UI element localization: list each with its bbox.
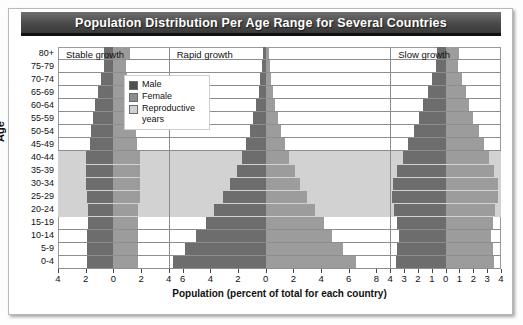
y-axis-labels: 80+75-7970-7465-6960-6455-5950-5445-4940… bbox=[18, 47, 56, 269]
pyramid-bar-female bbox=[266, 60, 270, 72]
pyramid-bar-female bbox=[446, 151, 489, 163]
pyramid-bar-male bbox=[91, 125, 113, 137]
x-axis-tick-label: 8 bbox=[374, 273, 379, 284]
pyramid-bar-female bbox=[266, 256, 356, 268]
pyramid-bar-male bbox=[403, 151, 446, 163]
pyramid-bar-male bbox=[397, 217, 445, 229]
pyramid-bar-female bbox=[446, 204, 496, 216]
pyramid-bar-male bbox=[185, 243, 265, 255]
pyramid-bar-female bbox=[266, 112, 278, 124]
y-axis-tick-label: 70-74 bbox=[31, 74, 54, 84]
pyramid-bar-male bbox=[436, 60, 446, 72]
pyramid-bar-male bbox=[428, 86, 446, 98]
pyramid-bar-male bbox=[87, 243, 113, 255]
x-axis-tick-label: 0 bbox=[443, 273, 448, 284]
x-axis-tick-label: 3 bbox=[401, 273, 406, 284]
chart-title-bar: Population Distribution Per Age Range fo… bbox=[21, 12, 501, 36]
pyramid-bar-female bbox=[266, 99, 276, 111]
y-axis-tick-label: 60-64 bbox=[31, 100, 54, 110]
x-axis-tick-label: 2 bbox=[83, 273, 88, 284]
pyramid-bar-male bbox=[206, 217, 266, 229]
y-axis-tick-label: 75-79 bbox=[31, 61, 54, 71]
y-axis-tick-label: 10-14 bbox=[31, 230, 54, 240]
pyramid-bar-female bbox=[446, 99, 470, 111]
legend-swatch-male-icon bbox=[129, 81, 138, 90]
pyramid-bar-male bbox=[246, 138, 265, 150]
pyramid-bar-male bbox=[397, 243, 445, 255]
pyramid-bar-male bbox=[396, 256, 446, 268]
pyramid-bar-male bbox=[87, 256, 113, 268]
legend-label-male: Male bbox=[142, 79, 162, 90]
pyramid-bar-female bbox=[113, 217, 138, 229]
pyramid-bar-female bbox=[113, 243, 138, 255]
pyramid-bar-female bbox=[266, 204, 316, 216]
legend-item-reproductive: Reproductive years bbox=[129, 103, 205, 125]
legend-swatch-reproductive-icon bbox=[129, 105, 138, 114]
x-axis-tick-label: 2 bbox=[138, 273, 143, 284]
pyramid-bar-male bbox=[98, 86, 113, 98]
x-axis-tick-label: 4 bbox=[208, 273, 213, 284]
pyramid-bar-female bbox=[266, 217, 324, 229]
pyramid-bar-female bbox=[446, 256, 494, 268]
y-axis-tick-label: 80+ bbox=[39, 48, 54, 58]
x-axis-tick-label: 2 bbox=[235, 273, 240, 284]
pyramid-bar-male bbox=[86, 151, 114, 163]
x-axis-tick-label: 0 bbox=[111, 273, 116, 284]
pyramid-bar-male bbox=[237, 165, 266, 177]
pyramid-bar-male bbox=[394, 204, 445, 216]
pyramid-bar-female bbox=[266, 138, 285, 150]
y-axis-tick-label: 15-19 bbox=[31, 217, 54, 227]
pyramid-bar-female bbox=[446, 243, 493, 255]
y-axis-tick-label: 45-49 bbox=[31, 139, 54, 149]
chart-page: Population Distribution Per Age Range fo… bbox=[0, 0, 523, 325]
pyramid-bar-female bbox=[446, 191, 499, 203]
x-axis-tick-label: 1 bbox=[457, 273, 462, 284]
x-axis-tick-label: 4 bbox=[318, 273, 323, 284]
pyramid-bar-male bbox=[253, 112, 265, 124]
y-axis-tick-label: 55-59 bbox=[31, 113, 54, 123]
pyramid-bar-male bbox=[95, 99, 113, 111]
pyramid-bar-female bbox=[113, 151, 139, 163]
x-axis-tick-label: 0 bbox=[263, 273, 268, 284]
pyramid-bar-male bbox=[90, 138, 114, 150]
pyramid-bar-female bbox=[446, 60, 458, 72]
x-axis-title: Population (percent of total for each co… bbox=[58, 288, 501, 299]
plot-area: Stable growthRapid growthSlow growth Mal… bbox=[58, 47, 501, 269]
pyramid-bar-female bbox=[446, 217, 493, 229]
pyramid-bar-male bbox=[256, 99, 266, 111]
pyramid-bar-male bbox=[432, 73, 446, 85]
pyramid-bar-male bbox=[173, 256, 266, 268]
pyramid-bar-male bbox=[101, 73, 113, 85]
pyramid-bar-male bbox=[87, 191, 113, 203]
pyramid-bar-female bbox=[266, 125, 281, 137]
pyramid-bar-male bbox=[88, 217, 113, 229]
legend-swatch-female-icon bbox=[129, 93, 138, 102]
pyramid-bar-female bbox=[113, 230, 138, 242]
y-axis-tick-label: 50-54 bbox=[31, 126, 54, 136]
pyramid-bar-male bbox=[259, 86, 266, 98]
pyramid-bar-male bbox=[214, 204, 265, 216]
pyramid-bar-female bbox=[446, 86, 467, 98]
x-axis-tick-label: 2 bbox=[291, 273, 296, 284]
pyramid-bar-male bbox=[230, 178, 266, 190]
pyramid-bar-female bbox=[446, 230, 492, 242]
pyramid-bar-male bbox=[223, 191, 266, 203]
y-axis-tick-label: 30-34 bbox=[31, 178, 54, 188]
pyramid-bar-female bbox=[113, 256, 138, 268]
pyramid-bar-female bbox=[266, 165, 295, 177]
pyramid-bar-male bbox=[196, 230, 265, 242]
legend-item-male: Male bbox=[129, 79, 205, 90]
pyramid-bar-female bbox=[113, 165, 139, 177]
pyramid-bar-female bbox=[446, 125, 479, 137]
pyramid-bar-male bbox=[414, 125, 446, 137]
pyramid-bar-male bbox=[86, 178, 114, 190]
x-axis-tick-label: 1 bbox=[429, 273, 434, 284]
pyramid-bar-male bbox=[397, 165, 445, 177]
x-axis-tick-label: 2 bbox=[415, 273, 420, 284]
x-axis-tick-label: 3 bbox=[485, 273, 490, 284]
pyramid-bar-male bbox=[399, 230, 446, 242]
page-title: Population Distribution Per Age Range fo… bbox=[75, 16, 447, 30]
x-axis-tick-label: 4 bbox=[166, 273, 171, 284]
pyramid-bar-female bbox=[113, 178, 139, 190]
pyramid-bar-female bbox=[266, 230, 332, 242]
